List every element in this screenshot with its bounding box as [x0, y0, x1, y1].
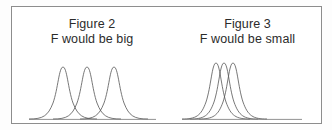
figure-3-curve-3 [199, 63, 267, 119]
figure-3-subtitle: F would be small [172, 32, 323, 46]
figure-2-title: Figure 2 [12, 17, 172, 31]
figure-2-curve-group [29, 67, 148, 119]
caption-figure-2: Figure 2 F would be big [12, 17, 172, 46]
caption-figure-3: Figure 3 F would be small [172, 17, 323, 46]
figure-3-title: Figure 3 [172, 17, 323, 31]
figure-2-curve-1 [29, 67, 97, 119]
panel-figure-3: Figure 3 F would be small [172, 7, 323, 125]
figure-2-subtitle: F would be big [12, 32, 172, 46]
figure-3-curve-group [182, 63, 267, 119]
figure-2-curves [12, 45, 172, 121]
figure-root: Figure 2 F would be big Figure 3 F would… [0, 0, 332, 130]
figure-2-plot [12, 45, 172, 121]
figure-frame: Figure 2 F would be big Figure 3 F would… [11, 6, 322, 124]
figure-3-plot [172, 45, 323, 121]
figure-3-curves [172, 45, 323, 121]
figure-3-curve-2 [190, 63, 258, 119]
figure-3-curve-1 [182, 63, 250, 119]
panel-figure-2: Figure 2 F would be big [12, 7, 172, 125]
